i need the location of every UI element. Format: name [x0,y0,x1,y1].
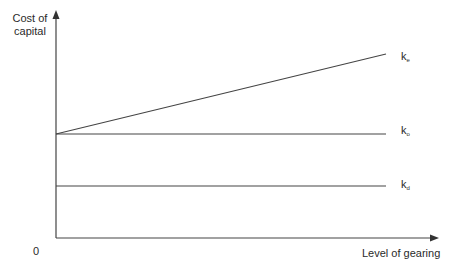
series-label-subscript: e [407,57,410,63]
series-label-ke: ke [401,50,410,66]
y-axis-arrow-icon [53,10,60,19]
y-axis-label: Cost of capital [9,12,51,38]
series-label-kd: kd [401,178,410,194]
series-label-ko: ko [401,124,410,140]
x-axis-arrow-icon [430,235,439,242]
origin-label: 0 [33,245,39,258]
x-axis-label: Level of gearing [362,247,440,260]
line-ke [56,54,386,134]
series-label-subscript: o [407,131,410,137]
cost-of-capital-diagram [0,0,454,272]
series-label-subscript: d [407,185,410,191]
